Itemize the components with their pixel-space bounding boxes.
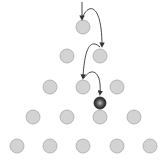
peg-r4-c3: [110, 139, 124, 153]
ball: [94, 97, 106, 109]
peg-r2-c1: [76, 80, 90, 94]
peg-r3-c0: [26, 110, 40, 124]
peg-r3-c3: [127, 110, 141, 124]
peg-r4-c2: [76, 139, 90, 153]
diagram-svg: [0, 0, 163, 164]
peg-r4-c0: [10, 139, 24, 153]
peg-r0-c0: [76, 20, 90, 34]
peg-r2-c0: [43, 80, 57, 94]
peg-r1-c0: [60, 49, 74, 63]
pegs: [10, 20, 157, 153]
peg-r3-c2: [93, 110, 107, 124]
peg-r4-c4: [143, 139, 157, 153]
peg-r2-c2: [110, 80, 124, 94]
peg-r4-c1: [43, 139, 57, 153]
peg-r3-c1: [60, 110, 74, 124]
galton-board-diagram: [0, 0, 163, 164]
ball-circle: [94, 97, 106, 109]
peg-r1-c1: [93, 49, 107, 63]
